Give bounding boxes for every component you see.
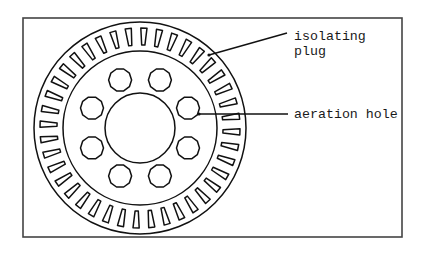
isolating-plug-leader-line [209,33,287,55]
isolating-plug-pointer-dot [207,53,210,56]
isolating-plug [118,209,126,227]
isolating-plug [195,188,210,204]
isolating-plug-label-line2: plug [294,44,326,59]
isolating-plug [43,149,61,158]
isolating-plug [223,129,240,135]
isolating-plug [88,200,100,217]
isolating-plug-label: isolating plug [294,29,366,59]
isolating-plug [40,121,57,127]
aeration-hole-label: aeration hole [294,107,398,122]
isolating-plug [208,70,225,83]
isolating-plug [95,36,106,53]
isolating-plug [41,106,59,114]
isolating-plug [51,76,68,88]
aeration-hole [81,97,104,119]
isolating-plug [221,143,239,151]
aeration-hole-pointer-dot [197,112,200,115]
isolating-plug [55,173,72,186]
aeration-hole [81,137,104,159]
isolating-plug [65,183,81,198]
isolating-plug [125,28,132,46]
aeration-hole [109,165,132,187]
isolating-plug [190,48,204,64]
aeration-holes [81,69,200,187]
isolating-plug [141,28,147,45]
aeration-hole [148,69,171,91]
isolating-plug [161,207,170,225]
aeration-hole [109,69,132,91]
isolating-plug [179,39,191,56]
isolating-plug [70,53,85,69]
isolating-plug [103,205,113,223]
isolating-plug [217,155,235,165]
isolating-plug [173,203,184,220]
isolating-plug [110,31,119,49]
isolating-plug [76,192,90,208]
isolating-plug [212,167,229,179]
isolating-plug [60,64,76,78]
isolating-plug [40,136,58,143]
isolating-plug [45,91,63,101]
isolating-plugs [40,28,240,228]
isolating-plug [167,33,177,51]
isolating-plug [148,210,155,228]
isolating-plug-label-line1: isolating [294,29,366,44]
aeration-hole [177,97,200,119]
isolating-plug [200,58,216,73]
middle-ring [63,51,217,205]
center-hub [105,93,175,163]
aeration-hole [148,165,171,187]
isolating-plug [82,43,95,60]
isolating-plug [133,211,139,228]
aeration-hole [177,137,200,159]
isolating-plug [204,178,220,192]
isolating-plug [185,196,198,213]
isolating-plug [48,161,65,172]
isolating-plug [219,98,237,107]
isolating-plug [155,29,163,47]
isolating-plug [215,83,232,94]
